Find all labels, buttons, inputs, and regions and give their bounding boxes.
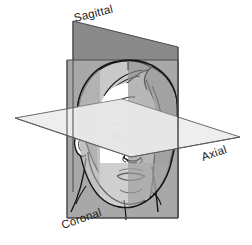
label-sagittal: Sagittal xyxy=(73,3,115,24)
label-axial: Axial xyxy=(200,143,228,163)
planes-diagram-svg: Sagittal Axial Coronal xyxy=(0,0,252,245)
anatomical-planes-figure: Sagittal Axial Coronal xyxy=(0,0,252,245)
